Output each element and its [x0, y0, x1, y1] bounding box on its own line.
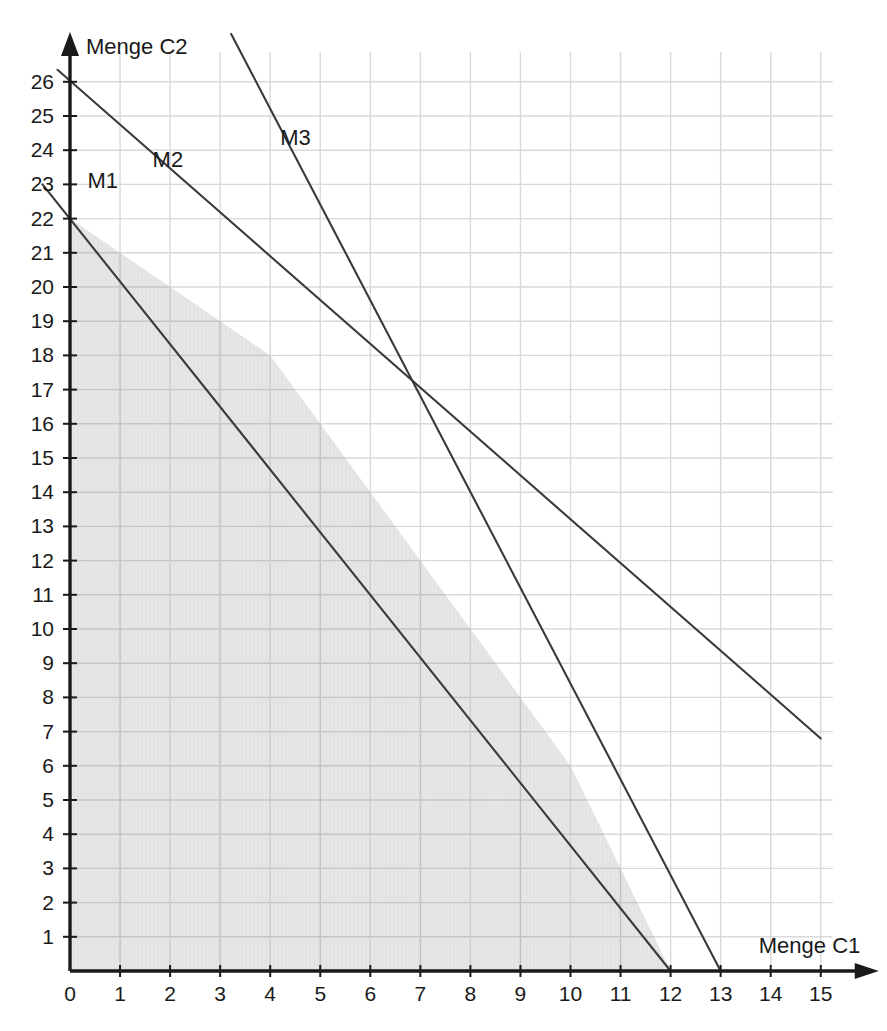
x-tick-label: 11	[610, 982, 632, 1005]
y-tick-label: 23	[31, 172, 54, 195]
y-tick-label: 26	[31, 70, 54, 93]
y-tick-label: 14	[31, 480, 55, 503]
y-tick-label: 25	[31, 104, 54, 127]
series-label-m2: M2	[153, 147, 184, 172]
y-tick-label: 19	[31, 309, 54, 332]
x-tick-label: 10	[559, 982, 582, 1005]
x-tick-label: 6	[364, 982, 376, 1005]
x-axis-title: Menge C1	[759, 933, 861, 958]
y-tick-label: 5	[42, 788, 54, 811]
x-tick-label: 0	[64, 982, 76, 1005]
y-tick-label: 3	[42, 856, 54, 879]
x-tick-label: 12	[659, 982, 682, 1005]
y-tick-label: 24	[31, 138, 55, 161]
y-tick-label: 9	[42, 651, 54, 674]
y-tick-label: 12	[31, 549, 54, 572]
y-tick-label: 8	[42, 685, 54, 708]
y-tick-label: 16	[31, 412, 54, 435]
x-tick-label: 1	[114, 982, 126, 1005]
x-tick-label: 5	[314, 982, 326, 1005]
x-tick-label: 4	[264, 982, 276, 1005]
series-label-m1: M1	[88, 168, 119, 193]
linear-programming-chart: 0123456789101112131415 12345678910111213…	[0, 0, 887, 1031]
x-tick-label: 8	[465, 982, 477, 1005]
y-tick-label: 22	[31, 207, 54, 230]
y-tick-label: 13	[31, 514, 54, 537]
series-label-m3: M3	[280, 125, 311, 150]
x-tick-label: 15	[809, 982, 832, 1005]
y-tick-label: 21	[31, 241, 54, 264]
x-tick-label: 14	[759, 982, 783, 1005]
y-tick-label: 6	[42, 754, 54, 777]
y-tick-label: 1	[42, 925, 54, 948]
y-tick-label: 2	[42, 891, 54, 914]
y-tick-label: 4	[42, 822, 54, 845]
x-tick-label: 2	[164, 982, 176, 1005]
y-tick-label: 7	[42, 720, 54, 743]
chart-canvas: 0123456789101112131415 12345678910111213…	[0, 0, 887, 1031]
y-tick-label: 11	[32, 583, 54, 606]
x-tick-label: 9	[515, 982, 527, 1005]
y-tick-label: 10	[31, 617, 54, 640]
y-tick-label: 20	[31, 275, 54, 298]
x-tick-label: 3	[214, 982, 226, 1005]
x-tick-label: 7	[415, 982, 427, 1005]
y-tick-label: 18	[31, 343, 54, 366]
x-tick-label: 13	[709, 982, 732, 1005]
y-tick-label: 15	[31, 446, 54, 469]
y-tick-label: 17	[31, 378, 54, 401]
y-axis-title: Menge C2	[86, 34, 188, 59]
